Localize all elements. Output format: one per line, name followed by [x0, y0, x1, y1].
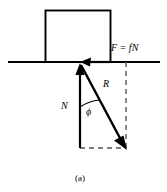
block-rectangle: [46, 11, 111, 63]
friction-angle-label: ϕ: [86, 107, 91, 117]
friction-force-label: F = fN: [111, 43, 138, 53]
resultant-force-shaft: [81, 65, 121, 140]
resultant-force-label: R: [103, 79, 109, 89]
figure-container: F = fN N R ϕ (a): [0, 0, 167, 192]
figure-caption: (a): [75, 174, 85, 183]
normal-force-label: N: [61, 101, 68, 111]
free-body-diagram: [0, 0, 167, 192]
